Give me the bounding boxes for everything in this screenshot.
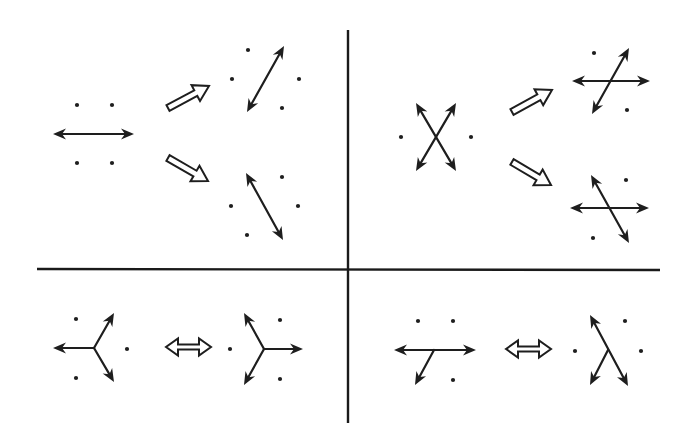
lattice-dot [623, 319, 627, 323]
arrowhead-icon [416, 103, 427, 117]
arrowhead-icon [445, 103, 456, 117]
transition-arrow-icon [510, 159, 551, 185]
arrow-shaft [419, 350, 434, 378]
arrow-shaft [248, 320, 264, 349]
arrow-shaft [250, 180, 279, 233]
panel-bottom-right [394, 315, 643, 386]
lattice-dot [280, 106, 284, 110]
lattice-dot [75, 103, 79, 107]
lattice-dot [229, 204, 233, 208]
lattice-dot [639, 349, 643, 353]
equivalence-arrow-icon [166, 339, 211, 356]
lattice-dot [74, 317, 78, 321]
lattice-dot [296, 204, 300, 208]
configuration-tl-result-down [229, 173, 300, 240]
arrowhead-icon [416, 157, 427, 171]
double-arrow-icon [53, 129, 134, 140]
double-arrow-icon [246, 173, 283, 240]
lattice-dot [416, 319, 420, 323]
configuration-tr-source [399, 103, 473, 171]
diagram-svg [0, 0, 685, 444]
lattice-dot [399, 135, 403, 139]
arrowhead-icon [103, 368, 114, 382]
arrow-shaft [94, 320, 110, 348]
lattice-dot [451, 378, 455, 382]
configuration-tr-result-down [570, 175, 649, 243]
single-arrow-icon [590, 350, 608, 385]
lattice-dot [246, 48, 250, 52]
lattice-dot [245, 233, 249, 237]
equivalence-arrow-icon [506, 341, 551, 358]
configuration-br-right [573, 315, 643, 386]
quadrant-dividers [37, 30, 660, 423]
panels [53, 46, 650, 386]
lattice-dot [592, 51, 596, 55]
configuration-tr-result-up [572, 48, 650, 114]
lattice-dot [591, 236, 595, 240]
lattice-dot [278, 377, 282, 381]
lattice-dot [110, 103, 114, 107]
lattice-dot [125, 347, 129, 351]
single-arrow-icon [264, 344, 303, 355]
arrow-shaft [594, 350, 608, 378]
lattice-dot [228, 347, 232, 351]
lattice-dot [469, 135, 473, 139]
lattice-dot [573, 349, 577, 353]
lattice-dot [230, 77, 234, 81]
single-arrow-icon [244, 313, 264, 349]
lattice-dot [451, 319, 455, 323]
lattice-dot [625, 108, 629, 112]
transition-arrow-icon [166, 85, 209, 111]
lattice-dot [75, 161, 79, 165]
arrow-shaft [248, 349, 264, 378]
transition-arrow-icon [510, 89, 552, 114]
single-arrow-icon [415, 350, 434, 385]
single-arrow-icon [53, 343, 94, 354]
single-arrow-icon [244, 349, 264, 385]
lattice-dot [110, 161, 114, 165]
arrowhead-icon [445, 157, 456, 171]
single-arrow-icon [94, 313, 114, 348]
panel-bottom-left [53, 313, 303, 385]
horizontal-divider [37, 269, 660, 270]
configuration-tl-source [53, 103, 134, 165]
configuration-bl-left [53, 313, 129, 382]
panel-top-left [53, 46, 301, 240]
lattice-dot [278, 318, 282, 322]
panel-top-right [399, 48, 650, 243]
single-arrow-icon [94, 348, 114, 382]
lattice-dot [297, 77, 301, 81]
configuration-bl-right [228, 313, 303, 385]
configuration-br-left [394, 319, 476, 385]
transition-arrow-icon [166, 155, 208, 181]
lattice-dot [74, 376, 78, 380]
configuration-tl-result-up [230, 46, 301, 112]
diagram-canvas [0, 0, 685, 444]
lattice-dot [624, 178, 628, 182]
arrow-shaft [251, 53, 280, 105]
lattice-dot [280, 175, 284, 179]
double-arrow-icon [247, 46, 284, 112]
arrow-shaft [94, 348, 110, 375]
